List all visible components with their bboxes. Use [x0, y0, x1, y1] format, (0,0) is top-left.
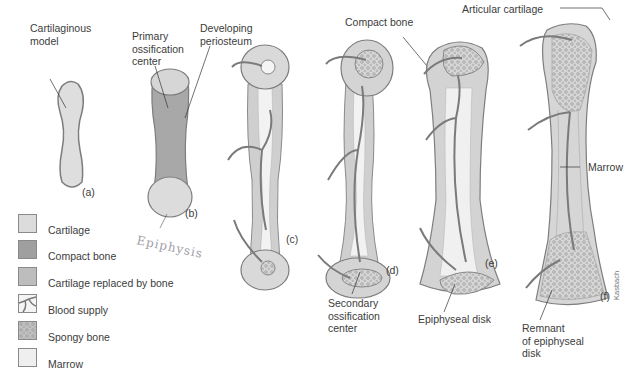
label-articular-cartilage: Articular cartilage — [462, 3, 543, 16]
label-remnant-epiphyseal-disk: Remnant of epiphyseal disk — [522, 322, 584, 360]
label-developing-periosteum: Developing periosteum — [200, 22, 253, 47]
stage-a-bone — [58, 81, 83, 187]
label-compact-bone: Compact bone — [345, 16, 413, 29]
stage-label-a: (a) — [82, 186, 95, 198]
compact-bone-swatch-icon — [18, 240, 37, 259]
stage-b-bone — [148, 69, 192, 217]
cartilage-swatch-icon — [18, 214, 37, 233]
legend-item-marrow: Marrow — [18, 348, 218, 374]
stage-label-c: (c) — [286, 233, 298, 245]
stage-label-d: (d) — [386, 264, 399, 276]
stage-label-e: (e) — [485, 257, 498, 269]
label-epiphyseal-disk: Epiphyseal disk — [418, 313, 491, 326]
stage-label-f: (f) — [600, 290, 610, 302]
label-marrow: Marrow — [588, 161, 623, 174]
legend-item-spongy-bone: Spongy bone — [18, 321, 218, 347]
label-secondary-ossification-center: Secondary ossification center — [328, 297, 380, 335]
legend-item-cartilage-replaced: Cartilage replaced by bone — [18, 267, 218, 293]
artist-signature: Kasbach — [612, 271, 621, 300]
blood-supply-swatch-icon — [18, 294, 37, 313]
spongy-bone-swatch-icon — [18, 321, 37, 340]
legend-item-compact-bone: Compact bone — [18, 240, 218, 266]
stage-d-bone — [318, 40, 393, 298]
marrow-swatch-icon — [18, 348, 37, 367]
stage-c-bone — [228, 45, 289, 290]
legend-item-blood-supply: Blood supply — [18, 294, 218, 320]
label-primary-ossification-center: Primary ossification center — [132, 30, 184, 68]
legend-item-cartilage: Cartilage — [18, 214, 218, 240]
label-cartilaginous-model: Cartilaginous model — [30, 22, 91, 47]
replaced-swatch-icon — [18, 267, 37, 286]
